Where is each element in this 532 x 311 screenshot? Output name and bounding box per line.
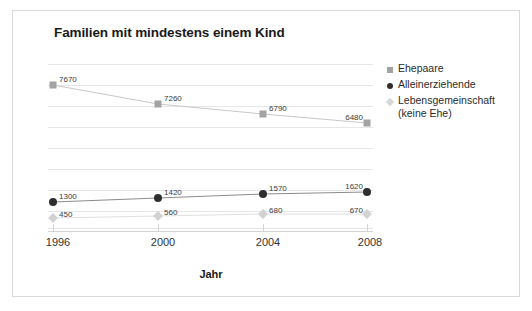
legend-label-lebensgemeinschaft: Lebensgemeinschaft [398,94,495,107]
legend-diamond-icon [386,94,398,107]
data-label-ehepaare-2004: 6790 [269,104,287,113]
series-lines [48,60,373,230]
x-axis-label-2008: 2008 [358,236,382,248]
legend-circle-icon [386,78,398,91]
x-axis-label-2000: 2000 [151,236,175,248]
legend-label-alleinerziehende: Alleinerziehende [398,78,476,91]
x-axis-tick [53,224,54,232]
legend-label-ehepaare: Ehepaare [398,62,444,75]
legend: Ehepaare Alleinerziehende Lebensgemeinsc… [386,62,516,123]
data-label-alleinerziehende-1996: 1300 [59,192,77,201]
data-label-ehepaare-1996: 7670 [59,75,77,84]
data-point-alleinerziehende-2008[interactable] [363,188,371,196]
x-axis-tick [263,224,264,232]
data-label-ehepaare-2000: 7260 [164,94,182,103]
data-label-alleinerziehende-2008: 1620 [345,182,363,191]
plot-area: 7670 7260 6790 6480 1300 1420 1570 1620 … [48,60,373,230]
data-label-alleinerziehende-2004: 1570 [269,184,287,193]
data-label-lebensgemeinschaft-2008: 670 [350,206,363,215]
series-line-alleinerziehende [53,192,367,202]
data-label-lebensgemeinschaft-2000: 560 [164,208,177,217]
x-axis-title: Jahr [199,268,222,280]
data-label-ehepaare-2008: 6480 [345,113,363,122]
x-axis-label-1996: 1996 [46,236,70,248]
data-label-alleinerziehende-2000: 1420 [164,188,182,197]
legend-square-icon [386,62,398,75]
data-point-ehepaare-2004[interactable] [260,111,267,118]
series-line-lebensgemeinschaft [53,214,367,218]
legend-item-ehepaare[interactable]: Ehepaare [386,62,516,75]
data-point-ehepaare-1996[interactable] [50,82,57,89]
chart-title: Familien mit mindestens einem Kind [54,25,285,40]
data-point-alleinerziehende-2004[interactable] [259,190,267,198]
legend-label-lebensgemeinschaft-line2: (keine Ehe) [398,107,495,120]
data-point-ehepaare-2008[interactable] [364,120,371,127]
data-label-lebensgemeinschaft-1996: 450 [59,210,72,219]
data-point-ehepaare-2000[interactable] [155,101,162,108]
data-label-lebensgemeinschaft-2004: 680 [269,206,282,215]
x-axis-tick [158,224,159,232]
legend-item-lebensgemeinschaft[interactable]: Lebensgemeinschaft (keine Ehe) [386,94,516,120]
chart-figure: Familien mit mindestens einem Kind 7670 … [0,0,532,311]
data-point-alleinerziehende-2000[interactable] [154,194,162,202]
x-axis-label-2004: 2004 [256,236,280,248]
legend-item-alleinerziehende[interactable]: Alleinerziehende [386,78,516,91]
series-line-ehepaare [53,85,367,123]
x-axis-line [48,231,373,232]
data-point-alleinerziehende-1996[interactable] [49,198,57,206]
x-axis-tick [367,224,368,232]
